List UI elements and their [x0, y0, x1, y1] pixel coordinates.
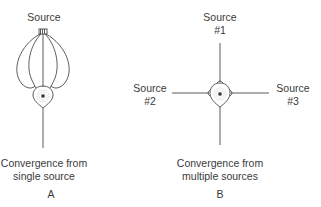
nucleus-b — [214, 88, 226, 100]
source-label-a: Source — [27, 11, 60, 24]
source2-label-line1: Source — [133, 82, 166, 95]
source3-label-line2: #3 — [287, 95, 299, 108]
caption-b-line1: Convergence from — [177, 157, 263, 170]
caption-b-line2: multiple sources — [182, 170, 258, 183]
source1-label-line1: Source — [203, 11, 236, 24]
caption-a-line1: Convergence from — [1, 157, 87, 170]
caption-a-line2: single source — [13, 170, 75, 183]
fiber-loop-inner-right — [45, 34, 57, 88]
fiber-loop-inner-left — [29, 34, 41, 88]
nucleus-a — [37, 90, 49, 102]
panel-a-neuron — [17, 29, 69, 148]
source3-label-line1: Source — [276, 82, 309, 95]
source1-label-line2: #1 — [214, 24, 226, 37]
fiber-loop-outer-right — [46, 34, 69, 88]
source2-label-line2: #2 — [144, 95, 156, 108]
panel-letter-b: B — [216, 188, 223, 201]
fiber-loop-outer-left — [17, 34, 40, 88]
panel-letter-a: A — [47, 188, 54, 201]
